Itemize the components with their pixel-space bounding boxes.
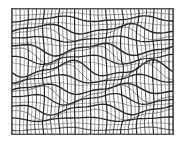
mesh-vertical-line [20, 9, 21, 134]
mesh-vertical-line [113, 9, 115, 134]
mesh-grid [12, 9, 173, 134]
mesh-vertical-line [102, 9, 103, 134]
mesh-vertical-line [90, 9, 91, 134]
mesh-vertical-line [153, 9, 154, 134]
mesh-vertical-line [71, 9, 72, 134]
mesh-vertical-line [75, 9, 76, 134]
mesh-vertical-line [54, 9, 56, 134]
mesh-vertical-line [144, 9, 146, 134]
mesh-vertical-line [157, 9, 158, 134]
mesh-vertical-line [149, 9, 151, 134]
mesh-vertical-line [136, 9, 139, 134]
mesh-vertical-line [66, 9, 67, 134]
figure-canvas [0, 0, 186, 144]
mesh-plot-frame [11, 8, 174, 135]
mesh-vertical-line [98, 9, 99, 134]
mesh-vertical-line [94, 9, 95, 134]
mesh-vertical-line [42, 9, 44, 134]
mesh-vertical-line [161, 9, 162, 134]
mesh-vertical-line [109, 9, 111, 134]
mesh-vertical-line [58, 9, 60, 134]
mesh-vertical-line [105, 9, 107, 134]
